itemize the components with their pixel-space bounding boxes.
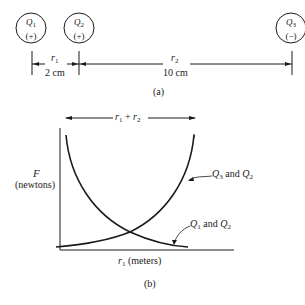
curve-q1-q2-decreasing — [66, 135, 188, 247]
x-axis-unit: (meters) — [125, 255, 161, 266]
distance-subscript: 2 — [175, 57, 179, 65]
charge-sign: (+) — [16, 31, 46, 42]
r2-symbol: r2 — [171, 53, 178, 65]
y-axis-unit: (newtons) — [15, 180, 55, 190]
curve-label-q3-q2: Q3 and Q2 — [212, 169, 253, 181]
charge-subscript: 1 — [33, 21, 37, 29]
arrowhead-left-icon — [33, 62, 39, 66]
arrowhead-right-icon — [285, 62, 291, 66]
arrowhead-right-icon — [72, 62, 78, 66]
distance-subscript: 1 — [55, 57, 59, 65]
leader-q1-q2 — [174, 226, 190, 244]
arrowhead-left-icon — [65, 116, 72, 120]
charge-sign: (+) — [64, 31, 94, 42]
arrowhead-left-icon — [80, 62, 86, 66]
curve-label-q1-q2: Q1 and Q2 — [190, 219, 231, 231]
r2-value: 10 cm — [163, 68, 188, 78]
charge-q2-label: Q2 (+) — [64, 17, 94, 42]
charge-q1-label: Q1 (+) — [16, 17, 46, 42]
leader-arrowhead-icon — [172, 240, 177, 245]
charge-q3-label: Q3 (−) — [276, 17, 305, 42]
span-plus: + — [122, 111, 133, 122]
curve-and: and — [201, 218, 220, 229]
arrowhead-right-icon — [189, 116, 196, 120]
leader-arrowhead-icon — [188, 177, 194, 181]
span-subscript-b: 2 — [137, 116, 141, 124]
charge-sign: (−) — [276, 31, 305, 42]
charge-subscript: 2 — [81, 21, 85, 29]
span-label: r1 + r2 — [115, 112, 140, 124]
r1-symbol: r1 — [51, 53, 58, 65]
y-axis-symbol: F — [33, 168, 40, 179]
caption-a: (a) — [153, 87, 164, 97]
curve-subscript: 2 — [227, 223, 231, 231]
curve-subscript: 2 — [249, 173, 253, 181]
curve-and: and — [223, 168, 242, 179]
caption-b: (b) — [144, 279, 156, 289]
charge-subscript: 3 — [293, 21, 297, 29]
r1-value: 2 cm — [45, 68, 65, 78]
x-axis-label: r1 (meters) — [118, 256, 161, 268]
